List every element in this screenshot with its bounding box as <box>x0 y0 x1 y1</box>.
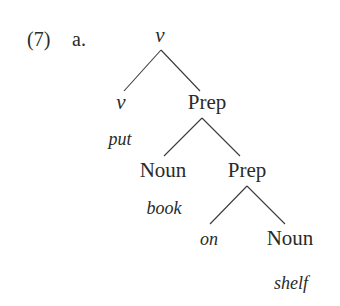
node-prep-1: Prep <box>188 92 227 113</box>
node-v-head: v <box>116 92 125 113</box>
edge-prep2-to-on <box>210 186 247 224</box>
edge-prep-to-prep <box>202 118 240 156</box>
node-prep-2: Prep <box>228 160 267 181</box>
edge-prep2-to-noun <box>247 186 285 224</box>
edge-prep-to-noun <box>164 118 202 156</box>
edge-root-to-v <box>124 50 161 91</box>
word-book: book <box>147 199 182 217</box>
edge-root-to-prep <box>161 50 200 91</box>
node-root-v: v <box>155 25 164 46</box>
example-sublabel: a. <box>72 29 86 49</box>
example-number: (7) <box>27 29 50 49</box>
syntax-tree-figure: (7) a. v v put Prep Noun book Prep on No… <box>0 0 340 306</box>
word-put: put <box>108 130 131 148</box>
word-shelf: shelf <box>274 274 308 292</box>
tree-edges <box>0 0 340 306</box>
word-on: on <box>200 230 218 248</box>
node-noun-1: Noun <box>140 160 187 181</box>
node-noun-2: Noun <box>267 228 314 249</box>
